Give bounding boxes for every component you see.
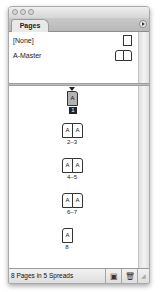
masters-section: [None] A-Master	[9, 32, 138, 83]
page-thumb[interactable]: A	[62, 228, 73, 243]
zoom-icon[interactable]	[28, 9, 34, 15]
spread-label: 2–3	[57, 139, 87, 145]
master-label: A-Master	[13, 52, 41, 59]
panel-titlebar[interactable]	[9, 7, 149, 18]
spread-label: 6–7	[57, 209, 87, 215]
master-label: [None]	[13, 37, 34, 44]
new-page-button[interactable]: ▣	[105, 269, 121, 284]
spread-label: 4–5	[57, 174, 87, 180]
trash-icon: 🗑	[125, 272, 135, 281]
minimize-icon[interactable]	[20, 9, 26, 15]
new-page-icon: ▣	[110, 272, 118, 281]
page-label: 1	[69, 107, 77, 114]
single-page-icon	[123, 35, 132, 46]
spread-right-icon	[123, 50, 132, 61]
master-a[interactable]: A-Master	[13, 52, 41, 59]
page-thumb[interactable]: A	[72, 158, 83, 173]
master-none[interactable]: [None]	[13, 37, 34, 44]
tab-bar: Pages	[9, 18, 149, 32]
page-thumb[interactable]: A	[67, 91, 78, 106]
delete-page-button[interactable]: 🗑	[121, 269, 137, 284]
resize-grip[interactable]: ◢	[137, 269, 149, 284]
page-count-status: 8 Pages in 5 Spreads	[11, 272, 73, 279]
resize-grip-icon: ◢	[141, 273, 146, 279]
page-thumb[interactable]: A	[72, 193, 83, 208]
page-label: 8	[52, 244, 82, 250]
page-thumb[interactable]: A	[72, 123, 83, 138]
pages-section: A 1 A A 2–3 A A 4–5 A A 6–7 A 8	[9, 86, 138, 268]
close-icon[interactable]	[12, 9, 18, 15]
panel-menu-icon[interactable]	[139, 20, 147, 28]
status-bar: 8 Pages in 5 Spreads ▣ 🗑 ◢	[9, 268, 149, 284]
tab-pages[interactable]: Pages	[11, 19, 49, 32]
pages-panel: Pages [None] A-Master A 1 A A 2–3 A A 4–…	[8, 6, 150, 284]
scrollbar[interactable]	[138, 32, 149, 268]
